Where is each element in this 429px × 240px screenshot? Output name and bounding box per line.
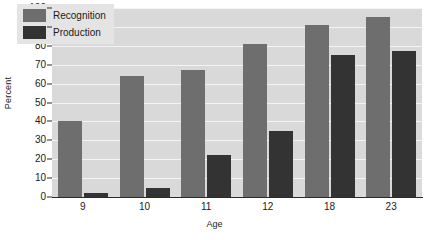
y-tick-mark [47, 26, 52, 27]
bar-production-11 [207, 155, 231, 197]
bar-production-10 [146, 188, 170, 197]
x-tick-label: 18 [324, 202, 335, 212]
x-tick-label: 10 [139, 202, 150, 212]
x-tick-label: 23 [386, 202, 397, 212]
chart-legend: RecognitionProduction [17, 4, 114, 44]
legend-swatch-production [23, 26, 46, 39]
legend-item-recognition: Recognition [23, 9, 106, 22]
y-tick-label: 40 [20, 116, 46, 126]
y-tick-mark [47, 8, 52, 9]
legend-label: Production [53, 28, 101, 38]
bar-recognition-11 [181, 70, 205, 197]
y-tick-label: 30 [20, 135, 46, 145]
x-axis-label: Age [0, 219, 429, 229]
bar-recognition-23 [366, 17, 390, 197]
x-tick-label: 12 [262, 202, 273, 212]
y-axis-label: Percent [3, 63, 13, 123]
y-tick-label: 70 [20, 60, 46, 70]
bar-recognition-18 [305, 25, 329, 197]
x-axis-line [52, 197, 423, 198]
y-tick-label: 20 [20, 154, 46, 164]
bar-recognition-10 [120, 76, 144, 197]
bar-production-23 [392, 51, 416, 197]
y-tick-label: 0 [20, 192, 46, 202]
y-tick-mark [47, 178, 52, 179]
bar-production-12 [269, 131, 293, 197]
y-tick-mark [47, 159, 52, 160]
y-tick-label: 50 [20, 98, 46, 108]
y-tick-label: 10 [20, 173, 46, 183]
y-tick-label: 60 [20, 79, 46, 89]
x-tick-label: 9 [80, 202, 86, 212]
bar-production-9 [84, 193, 108, 197]
y-tick-mark [47, 102, 52, 103]
bar-production-18 [331, 55, 355, 197]
legend-item-production: Production [23, 26, 106, 39]
bar-chart-figure: Percent 0102030405060708090100 910111218… [0, 0, 429, 240]
y-tick-mark [47, 64, 52, 65]
legend-swatch-recognition [23, 9, 46, 22]
legend-label: Recognition [53, 11, 106, 21]
y-tick-mark [47, 121, 52, 122]
y-tick-mark [47, 45, 52, 46]
bar-recognition-9 [58, 121, 82, 197]
x-tick-label: 11 [201, 202, 211, 212]
y-tick-mark [47, 83, 52, 84]
y-tick-mark [47, 140, 52, 141]
y-tick-mark [47, 197, 52, 198]
bar-recognition-12 [243, 44, 267, 197]
